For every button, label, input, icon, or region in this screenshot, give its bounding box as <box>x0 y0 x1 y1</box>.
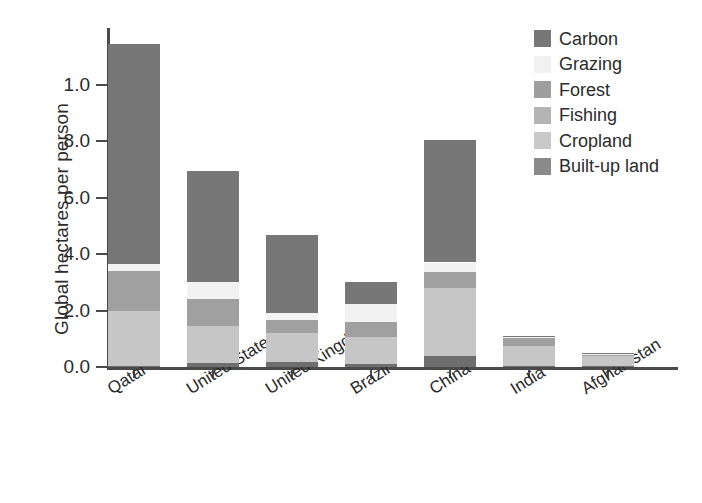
bar-segment <box>503 336 555 337</box>
legend-item[interactable]: Fishing <box>534 103 702 129</box>
bar-stack <box>108 28 160 367</box>
bar-segment <box>424 356 476 367</box>
y-tick-mark <box>96 253 107 255</box>
bar-segment <box>266 362 318 367</box>
x-axis-line <box>107 367 678 370</box>
y-tick-mark <box>96 84 107 86</box>
bar-segment <box>266 313 318 321</box>
bar-segment <box>424 272 476 288</box>
y-tick-label: 2.0 <box>30 300 90 322</box>
bar-segment <box>266 235 318 313</box>
legend-swatch-icon <box>534 81 551 98</box>
bar-segment <box>582 355 634 356</box>
bar-segment <box>503 366 555 367</box>
legend-item[interactable]: Grazing <box>534 52 702 78</box>
bar-stack <box>266 28 318 367</box>
bar-segment <box>503 337 555 338</box>
y-axis-title: Global hectares per person <box>51 54 73 384</box>
bar-segment <box>345 304 397 322</box>
y-tick-label: 0.0 <box>30 356 90 378</box>
y-tick-mark <box>96 310 107 312</box>
bar-segment <box>187 171 239 283</box>
bar-segment <box>108 264 160 271</box>
bar-segment <box>266 320 318 333</box>
legend-item[interactable]: Built-up land <box>534 154 702 180</box>
bar-segment <box>187 326 239 363</box>
bar-segment <box>187 299 239 326</box>
bar-segment <box>108 366 160 367</box>
legend-item-label: Forest <box>559 81 610 99</box>
y-tick-label: 6.0 <box>30 187 90 209</box>
bar-segment <box>266 333 318 362</box>
legend-item-label: Cropland <box>559 132 632 150</box>
legend-item-label: Built-up land <box>559 157 659 175</box>
y-tick-mark <box>96 197 107 199</box>
bar-segment <box>424 263 476 273</box>
bar-segment <box>108 44 160 264</box>
bar-segment <box>108 311 160 366</box>
legend-item[interactable]: Cropland <box>534 128 702 154</box>
legend-swatch-icon <box>534 107 551 124</box>
y-tick-mark <box>96 366 107 368</box>
bar-segment <box>345 337 397 364</box>
bar-segment <box>187 282 239 299</box>
legend-item[interactable]: Forest <box>534 77 702 103</box>
chart-legend: CarbonGrazingForestFishingCroplandBuilt-… <box>534 26 702 179</box>
legend-item-label: Fishing <box>559 106 617 124</box>
bar-segment <box>108 271 160 311</box>
bar-segment <box>582 356 634 366</box>
stacked-bar-chart: Global hectares per person 0.02.04.06.08… <box>0 0 702 503</box>
legend-swatch-icon <box>534 158 551 175</box>
y-tick-label: 4.0 <box>30 243 90 265</box>
legend-item-label: Grazing <box>559 55 622 73</box>
bar-segment <box>503 346 555 366</box>
y-tick-mark <box>96 140 107 142</box>
bar-segment <box>187 363 239 367</box>
y-tick-label: 8.0 <box>30 130 90 152</box>
legend-item[interactable]: Carbon <box>534 26 702 52</box>
legend-swatch-icon <box>534 56 551 73</box>
bar-stack <box>187 28 239 367</box>
bar-segment <box>582 353 634 354</box>
bar-segment <box>345 282 397 304</box>
bar-stack <box>345 28 397 367</box>
bar-segment <box>345 322 397 338</box>
bar-segment <box>582 366 634 367</box>
bar-segment <box>503 337 555 345</box>
bar-segment <box>424 140 476 263</box>
y-tick-label: 1.0 <box>30 74 90 96</box>
bar-segment <box>345 364 397 367</box>
legend-swatch-icon <box>534 30 551 47</box>
bar-segment <box>424 288 476 356</box>
bar-stack <box>424 28 476 367</box>
legend-item-label: Carbon <box>559 30 618 48</box>
legend-swatch-icon <box>534 132 551 149</box>
bar-segment <box>582 353 634 355</box>
